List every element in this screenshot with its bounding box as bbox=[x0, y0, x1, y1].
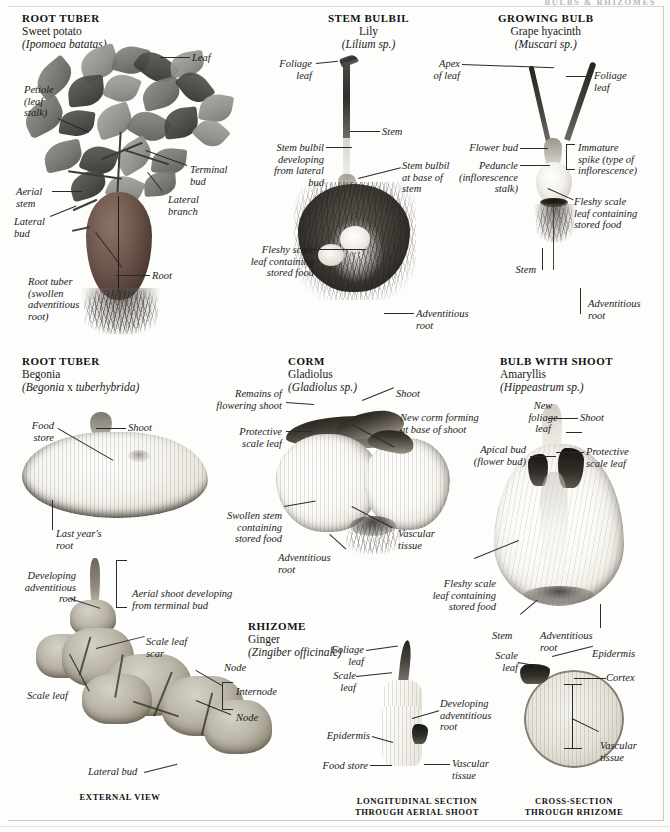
label-terminal-bud: Terminal bud bbox=[190, 164, 228, 187]
bracket-immature-spike bbox=[566, 144, 575, 170]
category-label-amaryllis: BULB WITH SHOOT bbox=[500, 355, 613, 368]
label-fleshy-scale-leaf-hyacinth: Fleshy scale leaf containing stored food bbox=[574, 196, 637, 231]
caption-longitudinal-section: LONGITUDINAL SECTION THROUGH AERIAL SHOO… bbox=[352, 796, 482, 818]
label-adventitious-root-lily: Adventitious root bbox=[416, 308, 469, 331]
label-root: Root bbox=[152, 270, 172, 282]
label-scale-leaf-scar: Scale leaf scar bbox=[146, 636, 187, 659]
label-stem-hyacinth: Stem bbox=[498, 264, 536, 276]
label-adventitious-root-hyacinth: Adventitious root bbox=[588, 298, 641, 321]
heading-amaryllis: BULB WITH SHOOT Amaryllis (Hippeastrum s… bbox=[500, 355, 613, 394]
label-lateral-bud-ginger: Lateral bud bbox=[88, 766, 137, 778]
label-node-1: Node bbox=[224, 662, 246, 674]
label-vascular-tissue-gladiolus: Vascular tissue bbox=[398, 528, 435, 551]
latin-name-begonia: (Begonia x tuberhybrida) bbox=[22, 381, 139, 394]
leader-adventitious-root-amaryllis bbox=[600, 604, 601, 628]
specimen-image-amaryllis bbox=[480, 400, 660, 640]
leader-adventitious-root-lily bbox=[384, 313, 414, 314]
bracket-internode bbox=[222, 682, 233, 710]
label-fleshy-scale-leaf-lily: Fleshy scale leaf containing stored food bbox=[218, 244, 314, 279]
label-leaf: Leaf bbox=[192, 52, 211, 64]
leader-shoot-begonia bbox=[96, 428, 126, 429]
label-shoot-begonia: Shoot bbox=[128, 422, 152, 434]
leader-vascular-tissue-longitudinal bbox=[424, 764, 450, 765]
label-lateral-bud: Lateral bud bbox=[14, 216, 45, 239]
label-developing-adv-root-ginger: Developing adventitious root bbox=[10, 570, 76, 605]
page-rule-right bbox=[663, 6, 664, 820]
label-food-store-longitudinal: Food store bbox=[300, 760, 368, 772]
page-rule-bottom-outer bbox=[0, 826, 670, 827]
latin-name-grape-hyacinth: (Muscari sp.) bbox=[498, 38, 594, 51]
leader-protective-scale-leaf-gladiolus bbox=[286, 431, 312, 432]
latin-name-lily: (Lilium sp.) bbox=[328, 38, 409, 51]
label-foliage-leaf-hyacinth: Foliage leaf bbox=[594, 70, 627, 93]
label-node-2: Node bbox=[236, 712, 258, 724]
leader-shoot-amaryllis bbox=[548, 418, 578, 419]
label-stem-bulbil-dev: Stem bulbil developing from lateral bud bbox=[258, 142, 324, 188]
label-adventitious-root-gladiolus: Adventitious root bbox=[278, 552, 331, 575]
label-scale-leaf-ginger: Scale leaf bbox=[10, 690, 68, 702]
label-last-years-root: Last year's root bbox=[56, 528, 102, 551]
label-immature-spike: Immature spike (type of inflorescence) bbox=[578, 142, 637, 177]
common-name-begonia: Begonia bbox=[22, 368, 139, 381]
leader-leaf bbox=[160, 57, 190, 58]
label-apex-of-leaf: Apex of leaf bbox=[412, 58, 460, 81]
leader-cortex-cross bbox=[574, 678, 606, 679]
leader-adventitious-root-hyacinth bbox=[580, 288, 581, 314]
leader-shoot-gladiolus bbox=[362, 387, 394, 401]
label-vascular-tissue-longitudinal: Vascular tissue bbox=[452, 758, 489, 781]
leader-protective-scale-leaf-amaryllis bbox=[556, 452, 584, 453]
label-fleshy-scale-leaf-amaryllis: Fleshy scale leaf containing stored food bbox=[404, 578, 496, 613]
common-name-sweet-potato: Sweet potato bbox=[22, 25, 107, 38]
common-name-gladiolus: Gladiolus bbox=[288, 368, 357, 381]
category-label-sweet-potato: ROOT TUBER bbox=[22, 12, 107, 25]
leader-apical-bud bbox=[530, 456, 556, 457]
leader-last-years-root bbox=[52, 500, 59, 530]
label-food-store-begonia: Food store bbox=[8, 420, 54, 443]
label-stem-lily: Stem bbox=[382, 126, 402, 138]
label-swollen-stem: Swollen stem containing stored food bbox=[198, 510, 282, 545]
label-apical-bud: Apical bud (flower bud) bbox=[452, 444, 526, 467]
page-canvas: BULBS & RHIZOMES ROOT TUBER Sweet potato… bbox=[0, 0, 670, 832]
label-developing-adv-root-longitudinal: Developing adventitious root bbox=[440, 698, 491, 733]
running-head: BULBS & RHIZOMES bbox=[544, 0, 656, 7]
label-remains-flowering-shoot: Remains of flowering shoot bbox=[196, 388, 282, 411]
label-scale-leaf-cross: Scale leaf bbox=[478, 650, 518, 673]
label-protective-scale-leaf-amaryllis: Protective scale leaf bbox=[586, 446, 629, 469]
heading-grape-hyacinth: GROWING BULB Grape hyacinth (Muscari sp.… bbox=[498, 12, 594, 51]
label-scale-leaf-longitudinal: Scale leaf bbox=[318, 670, 356, 693]
label-protective-scale-leaf-gladiolus: Protective scale leaf bbox=[206, 426, 282, 449]
label-vascular-tissue-cross: Vascular tissue bbox=[600, 740, 637, 763]
leader-new-foliage-leaf bbox=[566, 432, 582, 433]
leader-stem-lily bbox=[350, 131, 380, 132]
label-aerial-shoot-dev: Aerial shoot developing from terminal bu… bbox=[132, 588, 232, 611]
heading-gladiolus: CORM Gladiolus (Gladiolus sp.) bbox=[288, 355, 357, 394]
label-stem-bulbil-base: Stem bulbil at base of stem bbox=[402, 160, 450, 195]
leader-fleshy-scale-leaf-lily bbox=[314, 249, 366, 250]
leader-stem-hyacinth bbox=[542, 248, 543, 270]
common-name-amaryllis: Amaryllis bbox=[500, 368, 613, 381]
category-label-lily: STEM BULBIL bbox=[328, 12, 409, 25]
leader-remains-flowering-shoot bbox=[286, 402, 314, 405]
label-petiole: Petiole (leaf stalk) bbox=[24, 84, 54, 119]
label-root-tuber-swollen: Root tuber (swollen adventitious root) bbox=[28, 276, 79, 322]
label-shoot-amaryllis: Shoot bbox=[580, 412, 604, 424]
label-new-corm-forming: New corm forming at base of shoot bbox=[400, 412, 479, 435]
common-name-grape-hyacinth: Grape hyacinth bbox=[498, 25, 594, 38]
label-epidermis-cross: Epidermis bbox=[592, 648, 635, 660]
category-label-gladiolus: CORM bbox=[288, 355, 357, 368]
label-lateral-branch: Lateral branch bbox=[168, 194, 199, 217]
latin-name-gladiolus: (Gladiolus sp.) bbox=[288, 381, 357, 394]
heading-lily: STEM BULBIL Lily (Lilium sp.) bbox=[328, 12, 409, 51]
common-name-lily: Lily bbox=[328, 25, 409, 38]
latin-name-amaryllis: (Hippeastrum sp.) bbox=[500, 381, 613, 394]
label-foliage-leaf-longitudinal: Foliage leaf bbox=[318, 644, 364, 667]
label-shoot-gladiolus: Shoot bbox=[396, 388, 420, 400]
page-rule-bottom bbox=[8, 820, 664, 821]
label-peduncle: Peduncle (inflorescence stalk) bbox=[448, 160, 518, 195]
leader-peduncle bbox=[520, 165, 550, 166]
heading-begonia: ROOT TUBER Begonia (Begonia x tuberhybri… bbox=[22, 355, 139, 394]
label-epidermis-longitudinal: Epidermis bbox=[308, 730, 370, 742]
leader-foliage-leaf-hyacinth bbox=[566, 76, 592, 77]
leader-aerial-stem bbox=[52, 191, 82, 192]
leader-food-store-longitudinal bbox=[370, 765, 392, 766]
